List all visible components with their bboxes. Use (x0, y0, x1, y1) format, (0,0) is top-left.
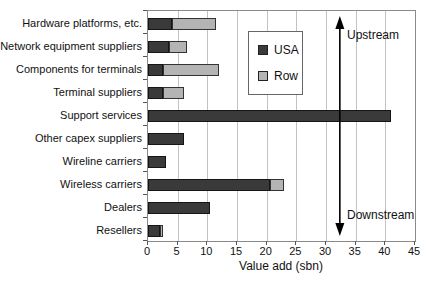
bar-segment-row (160, 225, 163, 237)
y-axis-tick (143, 102, 147, 103)
bar-segment-row (163, 87, 184, 99)
y-axis-tick (143, 56, 147, 57)
bar-segment-row (169, 41, 187, 53)
category-label: Other capex suppliers (0, 131, 142, 145)
bar-segment-usa (148, 179, 270, 191)
category-label: Dealers (0, 200, 142, 214)
category-label: Support services (0, 108, 142, 122)
gridline-x30 (326, 11, 327, 241)
category-label: Terminal suppliers (0, 85, 142, 99)
bar-segment-usa (148, 156, 166, 168)
x-tick-label: 25 (280, 245, 310, 257)
downstream-label: Downstream (347, 208, 414, 222)
bar-segment-usa (148, 87, 163, 99)
x-tick-label: 5 (162, 245, 192, 257)
upstream-label: Upstream (347, 28, 399, 42)
x-tick-label: 15 (221, 245, 251, 257)
y-axis-tick (143, 217, 147, 218)
y-axis-tick (143, 10, 147, 11)
legend-item-row: Row (258, 69, 302, 83)
x-tick-label: 10 (191, 245, 221, 257)
x-tick-label: 20 (251, 245, 281, 257)
category-label: Network equipment suppliers (0, 39, 142, 53)
row-swatch-icon (258, 71, 268, 81)
bar-segment-usa (148, 110, 391, 122)
bar-segment-row (163, 64, 219, 76)
x-tick-label: 0 (132, 245, 162, 257)
bar-segment-usa (148, 133, 184, 145)
y-axis-tick (143, 33, 147, 34)
bar-segment-usa (148, 225, 160, 237)
gridline-x15 (237, 11, 238, 241)
y-axis-tick (143, 194, 147, 195)
legend-label-row: Row (274, 69, 298, 83)
bar-segment-usa (148, 202, 210, 214)
bar-segment-row (172, 18, 217, 30)
bar-segment-usa (148, 64, 163, 76)
bar-segment-usa (148, 18, 172, 30)
x-axis-title: Value add (sbn) (181, 259, 381, 273)
category-label: Components for terminals (0, 62, 142, 76)
legend-label-usa: USA (274, 43, 299, 57)
bar-segment-usa (148, 41, 169, 53)
legend-item-usa: USA (258, 43, 302, 57)
category-label: Hardware platforms, etc. (0, 16, 142, 30)
usa-swatch-icon (258, 45, 268, 55)
category-label: Wireless carriers (0, 177, 142, 191)
category-label: Wireline carriers (0, 154, 142, 168)
y-axis-tick (143, 148, 147, 149)
gridline-x40 (385, 11, 386, 241)
x-tick-label: 40 (369, 245, 399, 257)
y-axis-tick (143, 125, 147, 126)
y-axis-tick (143, 79, 147, 80)
x-tick-label: 45 (399, 245, 429, 257)
category-label: Resellers (0, 223, 142, 237)
bar-segment-row (270, 179, 285, 191)
x-tick-label: 35 (340, 245, 370, 257)
value-add-chart: USA Row Upstream Downstream Value add (s… (0, 0, 431, 282)
x-tick-label: 30 (310, 245, 340, 257)
gridline-x35 (356, 11, 357, 241)
y-axis-tick (143, 171, 147, 172)
legend: USA Row (248, 31, 303, 95)
